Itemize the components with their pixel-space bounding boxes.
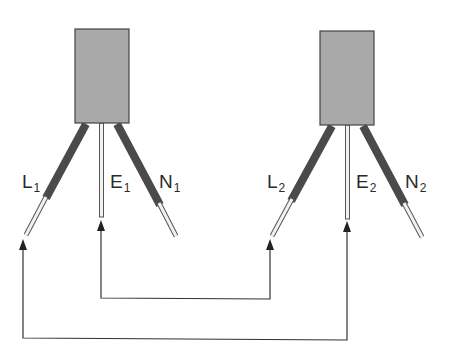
wire-E1 bbox=[100, 123, 104, 217]
unit-1 bbox=[26, 29, 176, 236]
accessory-box-1 bbox=[75, 29, 129, 123]
accessory-box-2 bbox=[320, 31, 374, 125]
arrow-up-icon bbox=[97, 220, 105, 231]
label-L1: L1 bbox=[22, 172, 40, 194]
connection-E1-L2 bbox=[97, 220, 274, 299]
wiring-diagram bbox=[0, 0, 449, 361]
label-E1: E1 bbox=[110, 172, 130, 194]
connection-L1-E2 bbox=[19, 221, 351, 340]
label-N1: N1 bbox=[159, 172, 180, 194]
label-L2: L2 bbox=[267, 172, 285, 194]
label-N2: N2 bbox=[405, 172, 426, 194]
label-E2: E2 bbox=[356, 172, 376, 194]
arrow-up-icon bbox=[19, 239, 27, 250]
arrow-up-icon bbox=[266, 239, 274, 250]
arrow-up-icon bbox=[343, 221, 351, 232]
wire-E2 bbox=[346, 125, 350, 219]
unit-2 bbox=[272, 31, 422, 237]
